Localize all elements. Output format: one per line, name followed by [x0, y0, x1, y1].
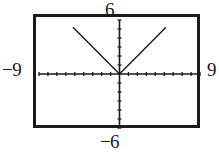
plot-frame: [33, 14, 200, 128]
plot-canvas: [36, 17, 203, 131]
graphing-calculator-window: 6 −9 9 −6: [0, 0, 219, 152]
x-max-label: 9: [207, 60, 216, 79]
x-min-label: −9: [2, 60, 21, 79]
y-min-label: −6: [0, 132, 219, 151]
